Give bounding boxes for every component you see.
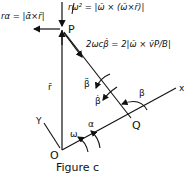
point-q-label: Q [132,120,141,131]
beta-angle-arc [122,102,147,110]
coriolis-accel-equation: 2ωcβ̇ = 2|ω̄ × v̄P/B| [86,40,171,49]
figure-caption: Figure c [56,162,99,173]
point-p-label: P [68,24,75,35]
figure-c-diagram: rα = |ᾱ×r̄| rω² = |ω̄ × (ω̄×r̄)| 2ωcβ̇ =… [0,0,189,176]
x-axis-label: x [179,84,184,93]
alpha-label: α [88,120,94,129]
normal-accel-equation: rω² = |ω̄ × (ω̄×r̄)| [68,3,144,12]
beta-ddot-label: β̈ [84,80,90,89]
beta-dot-label: β̇ [95,97,101,106]
y-axis-line [44,123,60,148]
x-axis-line [62,88,176,150]
diagram-lines [0,0,189,176]
coriolis-accel-arrow [64,33,82,57]
y-axis-label: Y [36,117,42,126]
beta-angle-label: β [139,89,145,98]
tangential-accel-equation: rα = |ᾱ×r̄| [1,12,45,21]
omega-label: ω [70,130,78,139]
r-vector-label: r̄ [48,83,52,92]
point-o-label: O [50,150,59,161]
omega-arrow [78,137,88,152]
